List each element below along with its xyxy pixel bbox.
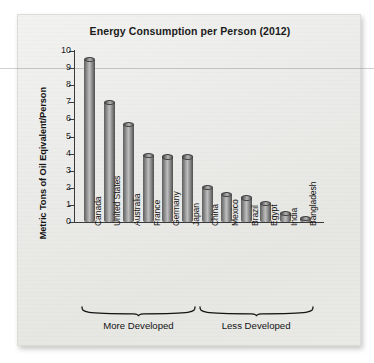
x-axis-category-label: Bangladesh <box>308 182 318 226</box>
bar-top-cap <box>104 100 115 105</box>
bar-top-cap <box>241 195 252 200</box>
y-axis-tick-label: 6 <box>66 113 71 123</box>
y-axis-tick-label: 5 <box>66 131 71 141</box>
group-brace <box>199 306 314 317</box>
x-axis-category-label: Mexico <box>230 199 240 226</box>
y-axis-title-anchor: Metric Tons of Oil Eqivalent/Person <box>52 51 53 222</box>
x-axis-category-label: United States <box>112 176 122 226</box>
chart-screenshot: Energy Consumption per Person (2012) Met… <box>0 0 374 363</box>
y-axis-tick-label: 1 <box>66 199 71 209</box>
x-axis-category-label: Germany <box>171 191 181 226</box>
y-axis-tick-label: 10 <box>61 45 71 55</box>
y-axis-tick-label: 3 <box>66 165 71 175</box>
y-axis-tick-label: 2 <box>66 182 71 192</box>
y-axis-tick-label: 4 <box>66 148 71 158</box>
x-axis-category-label: India <box>289 208 299 226</box>
y-axis-tick-label: 8 <box>66 79 71 89</box>
bar-top-cap <box>123 122 134 127</box>
x-axis-category-label: Australia <box>132 193 142 226</box>
bar-top-cap <box>143 153 154 158</box>
x-axis-category-label: Japan <box>191 203 201 226</box>
y-axis-tick-label: 0 <box>66 216 71 226</box>
chart-title: Energy Consumption per Person (2012) <box>40 25 340 37</box>
bar-top-cap <box>221 192 232 197</box>
x-axis-category-label: China <box>210 204 220 226</box>
bar-top-cap <box>182 154 193 159</box>
group-label: Less Developed <box>199 320 314 331</box>
y-axis-tick-label: 7 <box>66 96 71 106</box>
bar-top-cap <box>84 57 95 62</box>
y-axis-tick-label: 9 <box>66 62 71 72</box>
x-axis-category-label: Egypt <box>269 205 279 226</box>
y-axis-title: Metric Tons of Oil Eqivalent/Person <box>38 87 48 239</box>
bar-top-cap <box>202 185 213 190</box>
x-axis-category-label: Brazil <box>250 205 260 226</box>
bar-top-cap <box>162 154 173 159</box>
x-axis-category-label: Canada <box>93 196 103 226</box>
group-brace <box>81 306 196 317</box>
x-axis-category-label: France <box>152 200 162 226</box>
group-label: More Developed <box>81 320 196 331</box>
